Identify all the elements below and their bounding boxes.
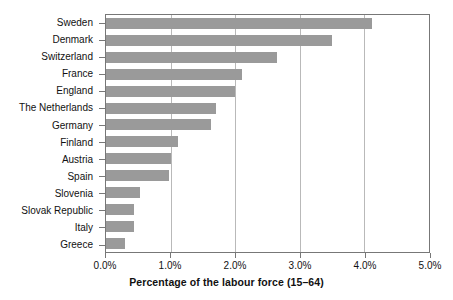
x-tick-label: 1.0% bbox=[159, 260, 182, 272]
bar-spain bbox=[106, 170, 169, 181]
x-axis-title: Percentage of the labour force (15–64) bbox=[0, 276, 453, 288]
bar-row bbox=[106, 117, 429, 134]
x-tick-mark bbox=[235, 253, 236, 258]
bar-the-netherlands bbox=[106, 103, 216, 114]
bar-row bbox=[106, 100, 429, 117]
bar-row bbox=[106, 167, 429, 184]
category-label-text: Greece bbox=[60, 239, 93, 250]
bar-row bbox=[106, 83, 429, 100]
category-label-text: Germany bbox=[52, 120, 93, 131]
category-label-text: Slovak Republic bbox=[21, 205, 93, 216]
bar-row bbox=[106, 150, 429, 167]
bar-finland bbox=[106, 136, 178, 147]
category-axis-labels: SwedenDenmarkSwitzerlandFranceEnglandThe… bbox=[0, 14, 99, 253]
category-label-italy: Italy bbox=[0, 219, 99, 236]
x-tick-label: 2.0% bbox=[224, 260, 247, 272]
category-label-text: Spain bbox=[67, 171, 93, 182]
bar-row bbox=[106, 15, 429, 32]
bar-denmark bbox=[106, 35, 332, 46]
x-tick-label: 5.0% bbox=[419, 260, 442, 272]
bar-row bbox=[106, 133, 429, 150]
category-label-switzerland: Switzerland bbox=[0, 48, 99, 65]
category-label-text: France bbox=[62, 68, 93, 79]
category-label-text: Slovenia bbox=[55, 188, 93, 199]
category-label-sweden: Sweden bbox=[0, 14, 99, 31]
category-label-text: Denmark bbox=[52, 34, 93, 45]
bar-sweden bbox=[106, 18, 372, 29]
category-label-text: Switzerland bbox=[41, 51, 93, 62]
category-label-text: England bbox=[56, 85, 93, 96]
category-label-france: France bbox=[0, 65, 99, 82]
bar-row bbox=[106, 184, 429, 201]
bar-row bbox=[106, 49, 429, 66]
bar-greece bbox=[106, 238, 125, 249]
bar-italy bbox=[106, 221, 134, 232]
x-tick-label: 0.0% bbox=[94, 260, 117, 272]
bar-row bbox=[106, 66, 429, 83]
category-label-spain: Spain bbox=[0, 168, 99, 185]
x-tick-mark bbox=[365, 253, 366, 258]
category-label-denmark: Denmark bbox=[0, 31, 99, 48]
bar-france bbox=[106, 69, 242, 80]
bar-germany bbox=[106, 119, 211, 130]
bar-row bbox=[106, 32, 429, 49]
category-label-text: Finland bbox=[60, 137, 93, 148]
bar-austria bbox=[106, 153, 171, 164]
bar-switzerland bbox=[106, 52, 277, 63]
bar-slovak-republic bbox=[106, 204, 134, 215]
category-label-slovak-republic: Slovak Republic bbox=[0, 202, 99, 219]
category-label-germany: Germany bbox=[0, 116, 99, 133]
bars-layer bbox=[106, 15, 429, 252]
category-label-england: England bbox=[0, 82, 99, 99]
category-label-austria: Austria bbox=[0, 151, 99, 168]
category-label-text: Austria bbox=[62, 154, 93, 165]
x-tick-mark bbox=[170, 253, 171, 258]
x-tick-label: 3.0% bbox=[289, 260, 312, 272]
x-tick-label: 4.0% bbox=[354, 260, 377, 272]
plot-area bbox=[105, 14, 430, 253]
bar-row bbox=[106, 201, 429, 218]
bar-chart: SwedenDenmarkSwitzerlandFranceEnglandThe… bbox=[0, 0, 453, 300]
bar-row bbox=[106, 218, 429, 235]
category-label-text: Italy bbox=[75, 222, 93, 233]
x-tick-mark bbox=[105, 253, 106, 258]
bar-slovenia bbox=[106, 187, 140, 198]
category-label-finland: Finland bbox=[0, 134, 99, 151]
category-label-slovenia: Slovenia bbox=[0, 185, 99, 202]
category-label-text: Sweden bbox=[57, 17, 93, 28]
category-label-the-netherlands: The Netherlands bbox=[0, 99, 99, 116]
bar-england bbox=[106, 86, 235, 97]
x-tick-mark bbox=[300, 253, 301, 258]
category-label-greece: Greece bbox=[0, 236, 99, 253]
x-tick-mark bbox=[430, 253, 431, 258]
category-label-text: The Netherlands bbox=[19, 102, 93, 113]
bar-row bbox=[106, 235, 429, 252]
